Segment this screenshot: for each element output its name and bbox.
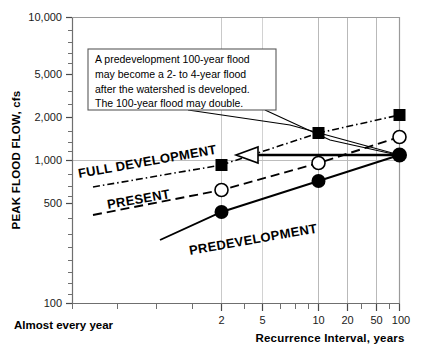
y-tick-1000: 1,000 — [34, 154, 62, 166]
callout-line-4: The 100-year flood may double. — [95, 97, 243, 109]
y-tick-500: 500 — [44, 197, 62, 209]
callout-line-3: after the watershed is developed. — [95, 83, 250, 95]
y-tick-5000: 5,000 — [34, 68, 62, 80]
marker-predevelopment-10yr — [312, 174, 326, 188]
x-tick-10: 10 — [312, 314, 324, 326]
almost-every-year-label: Almost every year — [14, 319, 114, 331]
y-tick-10000: 10,000 — [28, 11, 62, 23]
marker-predevelopment-2yr — [215, 205, 229, 219]
y-axis-title: PEAK FLOOD FLOW, cfs — [10, 91, 22, 230]
callout-line-1: A predevelopment 100-year flood — [95, 53, 250, 65]
marker-full-development-2yr — [216, 159, 228, 171]
marker-full-development-100yr — [394, 109, 406, 121]
x-tick-5: 5 — [259, 314, 265, 326]
marker-present-10yr — [312, 157, 325, 170]
y-axis-minor-ticks — [68, 31, 72, 295]
x-tick-50: 50 — [370, 314, 382, 326]
y-tick-2000: 2,000 — [34, 111, 62, 123]
x-axis-major-ticks — [222, 304, 400, 311]
chart-svg: 10,000 5,000 2,000 1,000 500 100 PEAK FL… — [0, 0, 422, 352]
x-tick-20: 20 — [341, 314, 353, 326]
y-tick-100: 100 — [44, 297, 62, 309]
x-axis-minor-ticks — [73, 304, 390, 309]
marker-present-2yr — [215, 184, 228, 197]
marker-present-100yr — [393, 131, 406, 144]
x-axis-title: Recurrence Interval, years — [255, 332, 404, 344]
x-tick-100: 100 — [392, 314, 410, 326]
callout-line-2: may become a 2- to 4-year flood — [95, 68, 246, 80]
peak-flood-flow-chart: 10,000 5,000 2,000 1,000 500 100 PEAK FL… — [0, 0, 422, 352]
x-tick-2: 2 — [218, 314, 224, 326]
